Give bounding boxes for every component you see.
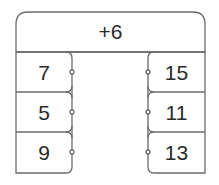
input-cell-2: 5: [16, 102, 72, 123]
output-cell-2: 11: [148, 102, 205, 123]
output-cell-1: 15: [148, 62, 205, 83]
input-cell-1: 7: [16, 62, 72, 83]
rule-label: +6: [16, 21, 205, 42]
input-cell-3: 9: [16, 142, 72, 163]
output-cell-3: 13: [148, 142, 205, 163]
